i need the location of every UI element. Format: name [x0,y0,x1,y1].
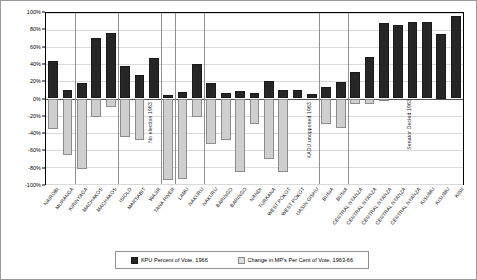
bar-kpu-vote [321,87,331,98]
bar-mp-change [192,99,202,118]
plot-wrapper: No election 1963KADU unopposed 1963Senat… [9,8,470,242]
legend-label-change: Change in MP's Per Cent of Vote, 1963-66 [248,257,354,263]
bar-kpu-vote [278,90,288,99]
bar-kpu-vote [91,38,101,99]
bar-mp-change [48,99,58,130]
bar-group [449,13,463,184]
bar-series-container [46,13,463,184]
bar-group [247,13,261,184]
bar-group [319,13,333,184]
bar-mp-change [278,99,288,173]
bar-mp-change [163,99,173,180]
bar-kpu-vote [422,22,432,98]
bar-mp-change [321,99,331,125]
bar-kpu-vote [307,94,317,98]
group-separator [348,13,349,184]
bar-group [219,13,233,184]
group-separator [161,13,162,184]
y-axis-tick-label: -20% [9,113,41,119]
bar-kpu-vote [120,66,130,98]
bar-mp-change [379,99,389,102]
bar-group [391,13,405,184]
y-axis-tick-label: -80% [9,165,41,171]
x-axis-tick-label: BUSIA [320,186,334,202]
y-axis-tick-label: -40% [9,130,41,136]
y-axis-tick-label: 60% [9,44,41,50]
bar-kpu-vote [408,22,418,98]
bar-group [290,13,304,184]
bar-group [147,13,161,184]
bar-mp-change [120,99,130,137]
y-axis-tick-label: -60% [9,147,41,153]
bar-kpu-vote [235,91,245,99]
group-separator [118,13,119,184]
bar-mp-change [221,99,231,141]
plot-area: No election 1963KADU unopposed 1963Senat… [45,12,464,185]
bar-kpu-vote [149,58,159,98]
legend-swatch-change [238,257,245,264]
bar-group [276,13,290,184]
bar-kpu-vote [350,72,360,99]
bar-kpu-vote [206,83,216,98]
bar-mp-change [63,99,73,155]
bar-group [46,13,60,184]
bar-group [104,13,118,184]
y-axis-tick-label: -100% [9,182,41,188]
bar-group [434,13,448,184]
bar-kpu-vote [77,83,87,98]
bar-kpu-vote [63,90,73,99]
group-separator [319,13,320,184]
bar-group [60,13,74,184]
bar-kpu-vote [264,81,274,98]
bar-kpu-vote [436,34,446,98]
bar-group [132,13,146,184]
bar-kpu-vote [365,57,375,99]
bar-kpu-vote [379,23,389,98]
bar-group [118,13,132,184]
bar-mp-change [250,99,260,125]
bar-group [204,13,218,184]
bar-kpu-vote [451,16,461,99]
bar-kpu-vote [106,33,116,99]
y-axis-tick-label: 0% [9,96,41,102]
bar-mp-change [365,99,375,105]
bar-mp-change [235,99,245,173]
bar-kpu-vote [178,92,188,99]
legend-label-kpu: KPU Percent of Vote, 1966 [141,257,208,263]
bar-group [262,13,276,184]
y-axis-tick-label: 20% [9,78,41,84]
legend-item-change: Change in MP's Per Cent of Vote, 1963-66 [238,257,354,264]
y-axis-tick-label: 40% [9,61,41,67]
x-axis-labels: NAIROBIMURANGAKIRINYAGAMACHAKOSMACHAKOSI… [45,185,464,242]
x-axis-tick-label: KISII [453,186,465,199]
legend-swatch-kpu [131,257,138,264]
bar-mp-change [264,99,274,160]
plot-annotation: No election 1963 [147,102,153,143]
bar-kpu-vote [48,61,58,99]
bar-kpu-vote [135,75,145,99]
bar-group [362,13,376,184]
bar-group [161,13,175,184]
bar-kpu-vote [393,25,403,99]
bar-mp-change [135,99,145,140]
group-separator [175,13,176,184]
bar-kpu-vote [336,82,346,98]
group-separator [204,13,205,184]
bar-group [175,13,189,184]
bar-group [420,13,434,184]
bar-mp-change [77,99,87,170]
chart-figure: No election 1963KADU unopposed 1963Senat… [0,0,477,280]
plot-annotation: Senator Decied 1963 [406,99,412,150]
bar-group [75,13,89,184]
bar-group [334,13,348,184]
y-axis-tick-label: 80% [9,26,41,32]
plot-annotation: KADU unopposed 1963 [306,102,312,158]
bar-mp-change [91,99,101,118]
group-separator [75,13,76,184]
bar-group [377,13,391,184]
bar-kpu-vote [293,90,303,99]
bar-mp-change [350,99,360,104]
bar-mp-change [106,99,116,108]
bar-group [348,13,362,184]
bar-group [190,13,204,184]
